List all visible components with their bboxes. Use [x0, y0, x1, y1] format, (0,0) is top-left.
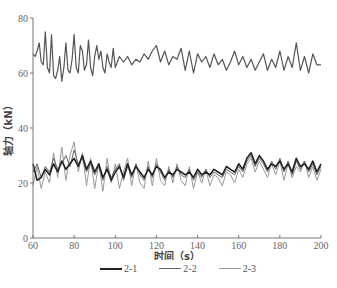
x-tick-label: 60: [28, 240, 38, 251]
x-tick-label: 200: [314, 240, 329, 251]
series-line-upper: [33, 32, 321, 82]
x-tick-label: 100: [108, 240, 123, 251]
legend-label-2-3: 2-3: [243, 263, 256, 274]
x-tick-label: 140: [190, 240, 205, 251]
legend-item-2-2: 2-2: [159, 263, 196, 274]
legend-swatch-2-1: [100, 268, 122, 270]
legend-item-2-1: 2-1: [100, 263, 137, 274]
x-tick-label: 80: [69, 240, 79, 251]
x-tick-label: 160: [231, 240, 246, 251]
legend-item-2-3: 2-3: [219, 263, 256, 274]
x-tick-label: 120: [149, 240, 164, 251]
x-axis-ticks: 6080100120140160180200: [28, 235, 329, 251]
legend-swatch-2-3: [219, 268, 241, 269]
y-axis-title: 轴力（kN）: [2, 100, 14, 155]
legend-label-2-2: 2-2: [183, 263, 196, 274]
y-tick-label: 80: [18, 13, 28, 24]
y-tick-label: 20: [18, 178, 28, 189]
line-chart: 020406080 6080100120140160180200 时间（s） 轴…: [0, 0, 337, 260]
chart-legend: 2-1 2-2 2-3: [100, 263, 256, 274]
legend-swatch-2-2: [159, 268, 181, 269]
y-tick-label: 60: [18, 68, 28, 79]
plot-lines: [33, 32, 321, 192]
legend-label-2-1: 2-1: [124, 263, 137, 274]
y-axis-ticks: 020406080: [18, 13, 33, 244]
y-tick-label: 40: [18, 123, 28, 134]
x-axis-title: 时间（s）: [154, 250, 200, 260]
x-tick-label: 180: [272, 240, 287, 251]
